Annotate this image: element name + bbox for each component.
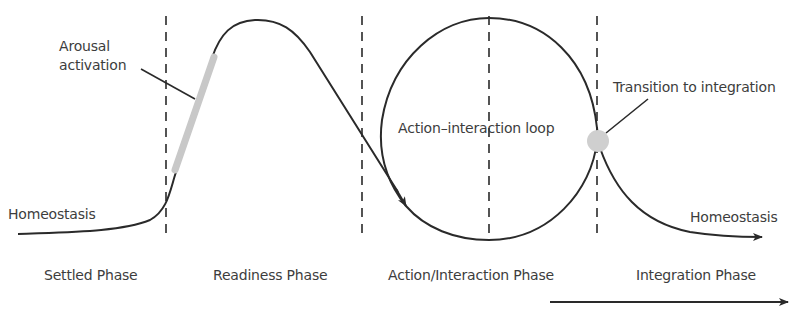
arousal-activation-highlight [175,57,214,170]
arousal-pointer-line [141,69,195,99]
arousal-label-line1: Arousal [59,37,126,56]
phase-action-interaction-label: Action/Interaction Phase [388,267,554,284]
homeostasis-end-label: Homeostasis [690,209,778,226]
transition-dot [587,130,609,152]
transition-pointer-line [606,99,648,133]
arousal-activation-label: Arousal activation [59,37,126,75]
homeostasis-start-label: Homeostasis [8,206,96,223]
arousal-label-line2: activation [59,56,126,75]
action-interaction-loop-label: Action–interaction loop [398,120,554,137]
phase-settled-label: Settled Phase [44,267,138,284]
phase-integration-label: Integration Phase [636,267,756,284]
transition-label: Transition to integration [613,79,776,96]
phase-readiness-label: Readiness Phase [213,267,327,284]
